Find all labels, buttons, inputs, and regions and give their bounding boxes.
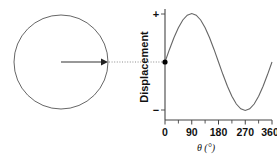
x-tick-label-180: 180 [210, 126, 228, 138]
x-tick-label-0: 0 [162, 126, 168, 138]
physics-figure-circular-motion-sine: + − Displacement 0 90 180 270 360 θ (°) [0, 0, 277, 160]
y-axis-minus-label: − [153, 104, 159, 116]
sine-graph-group: + − Displacement 0 90 180 270 360 θ (°) [138, 8, 277, 154]
radius-arrow-head [101, 59, 108, 66]
x-tick-label-90: 90 [186, 126, 198, 138]
circle-diagram-group [14, 15, 108, 109]
x-axis-major-ticks [165, 120, 272, 125]
y-axis-plus-label: + [153, 8, 159, 20]
y-axis-title: Displacement [138, 31, 150, 103]
sine-curve [165, 14, 272, 111]
start-point-marker [162, 59, 167, 64]
figure-canvas: + − Displacement 0 90 180 270 360 θ (°) [0, 0, 277, 160]
x-axis-title: θ (°) [197, 142, 216, 154]
x-tick-label-270: 270 [236, 126, 254, 138]
x-tick-label-360: 360 [261, 126, 277, 138]
